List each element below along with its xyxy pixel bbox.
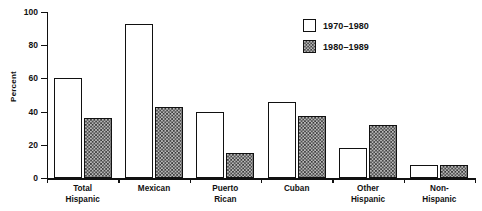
bar: [155, 107, 183, 178]
bar: [84, 118, 112, 178]
x-axis-label: Mexican: [118, 184, 189, 195]
x-axis-label: Cuban: [261, 184, 332, 195]
legend-swatch-icon-1970-1980: [303, 19, 316, 32]
bar: [440, 165, 468, 178]
legend-label-1980-1989: 1980–1989: [323, 42, 369, 52]
x-axis-label: Puerto Rican: [190, 184, 261, 205]
plot-area: [47, 12, 475, 178]
bar-group: [125, 12, 183, 178]
x-tick: [47, 178, 48, 183]
legend-swatch-icon-1980-1989: [303, 40, 316, 53]
bar: [226, 153, 254, 178]
y-tick-label-40: 40: [12, 107, 38, 117]
bar-chart: Percent 100 80 60 40 20 0 Total Hispanic…: [0, 0, 482, 211]
x-axis-label: Non- Hispanic: [404, 184, 475, 205]
x-tick: [190, 178, 191, 183]
x-tick: [404, 178, 405, 183]
x-axis-label: Total Hispanic: [47, 184, 118, 205]
y-tick-label-60: 60: [12, 73, 38, 83]
x-tick: [332, 178, 333, 183]
x-axis-label: Other Hispanic: [332, 184, 403, 205]
bar-group: [54, 12, 112, 178]
bar: [410, 165, 438, 178]
bar: [298, 116, 326, 178]
legend-label-1970-1980: 1970–1980: [323, 21, 369, 31]
bar: [339, 148, 367, 178]
x-tick: [118, 178, 119, 183]
legend-item-1970-1980[interactable]: 1970–1980: [303, 17, 369, 34]
bar: [369, 125, 397, 178]
y-tick-label-100: 100: [12, 7, 38, 17]
bar-group: [196, 12, 254, 178]
y-tick-label-0: 0: [12, 173, 38, 183]
x-tick: [261, 178, 262, 183]
bar: [125, 24, 153, 178]
bar: [268, 102, 296, 178]
y-tick-label-80: 80: [12, 40, 38, 50]
bar: [54, 78, 82, 178]
x-tick: [475, 178, 476, 183]
bar-group: [410, 12, 468, 178]
legend: 1970–1980 1980–1989: [303, 17, 369, 59]
bar: [196, 112, 224, 178]
y-tick-label-20: 20: [12, 140, 38, 150]
legend-item-1980-1989[interactable]: 1980–1989: [303, 38, 369, 55]
